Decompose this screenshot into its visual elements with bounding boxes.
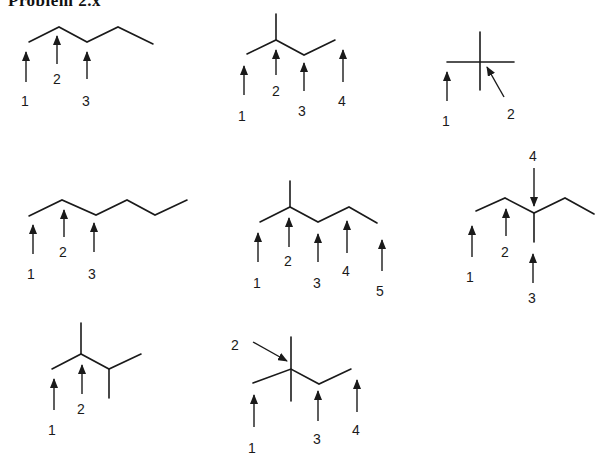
structure-7: 1 2 (48, 323, 141, 438)
position-label: 1 (442, 113, 450, 129)
position-label: 4 (352, 422, 360, 438)
structure-8: 2 1 3 4 (231, 337, 360, 456)
position-label: 1 (21, 93, 29, 109)
position-label: 3 (528, 290, 536, 306)
structures-canvas: 1 2 3 1 2 3 4 1 2 1 2 3 (0, 0, 613, 461)
position-label: 1 (466, 269, 474, 285)
position-label: 2 (501, 244, 509, 260)
position-label: 3 (313, 431, 321, 447)
structure-1: 1 2 3 (21, 27, 153, 109)
position-label: 1 (253, 275, 261, 291)
structure-3: 1 2 (442, 32, 515, 129)
position-label: 3 (298, 103, 306, 119)
position-label: 2 (77, 401, 85, 417)
position-label: 3 (82, 93, 90, 109)
position-label: 3 (88, 266, 96, 282)
structure-2: 1 2 3 4 (238, 14, 346, 124)
position-label: 2 (272, 83, 280, 99)
structure-5: 1 2 3 4 5 (253, 181, 384, 299)
position-label: 4 (529, 148, 537, 164)
position-label: 5 (376, 283, 384, 299)
structure-4: 1 2 3 (27, 200, 187, 282)
position-label: 1 (27, 266, 35, 282)
position-label: 2 (507, 106, 515, 122)
position-label: 1 (48, 422, 56, 438)
position-label: 2 (231, 337, 239, 353)
position-label: 1 (248, 440, 256, 456)
position-label: 1 (238, 108, 246, 124)
position-label: 2 (53, 71, 61, 87)
position-label: 4 (338, 93, 346, 109)
structure-6: 4 1 2 3 (466, 148, 594, 306)
position-label: 2 (59, 244, 67, 260)
position-label: 2 (284, 253, 292, 269)
position-label: 4 (342, 263, 350, 279)
position-label: 3 (313, 275, 321, 291)
